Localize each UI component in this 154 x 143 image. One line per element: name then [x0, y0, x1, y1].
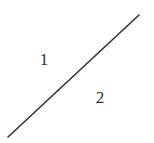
diagram-svg: 1 2	[0, 0, 154, 143]
region-label-1: 1	[40, 50, 49, 69]
dividing-line	[8, 15, 139, 137]
diagram-canvas: 1 2	[0, 0, 154, 143]
region-label-2: 2	[96, 88, 105, 107]
